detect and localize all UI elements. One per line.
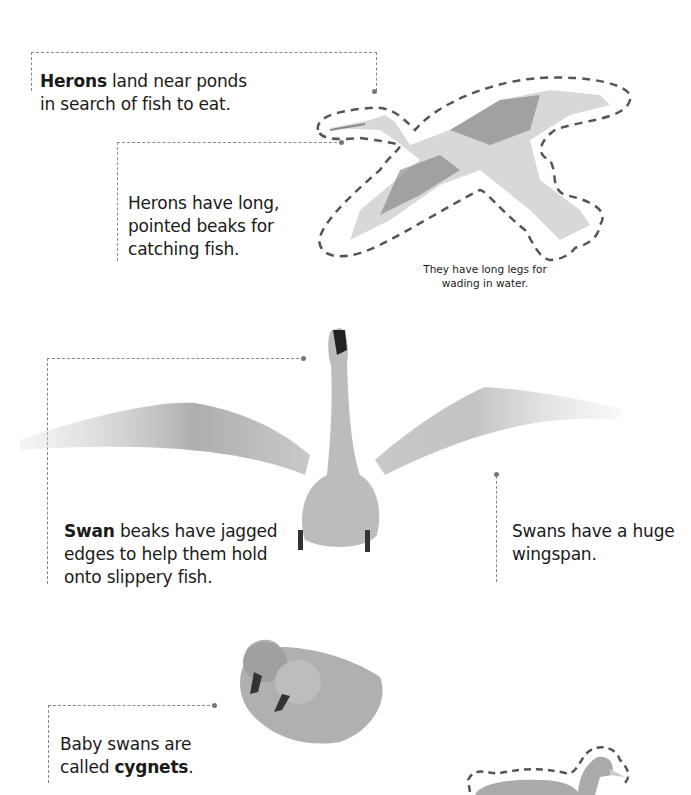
swan-wingspan-caption: Swans have a huge wingspan. (512, 520, 674, 566)
cygnets-caption: Baby swans are called cygnets. (60, 733, 194, 779)
swan-beak-caption: Swan beaks have jagged edges to help the… (64, 520, 277, 589)
cygnets-illustration (230, 632, 390, 747)
heron-illustration (300, 60, 640, 270)
leader-line-swan-wingspan (496, 476, 497, 582)
heron-intro-caption: Herons land near ponds in search of fish… (40, 70, 247, 116)
heron-beak-caption: Herons have long, pointed beaks for catc… (128, 192, 279, 261)
swan-bold: Swan (64, 521, 115, 541)
cygnets-bold: cygnets (114, 757, 188, 777)
heron-bold: Herons (40, 71, 107, 91)
swimming-swan-illustration (460, 735, 640, 795)
heron-legs-caption: They have long legs for wading in water. (400, 262, 570, 290)
leader-dot (212, 703, 217, 708)
